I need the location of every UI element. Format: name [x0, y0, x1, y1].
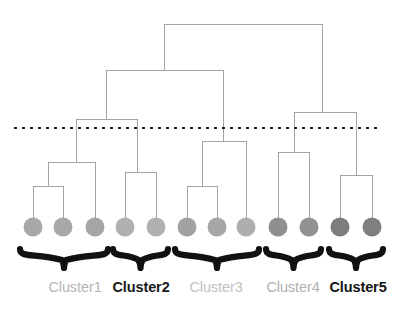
leaf-node-L4 [116, 218, 135, 237]
dendrogram-leaf-nodes [24, 218, 382, 237]
leaf-node-L11 [331, 218, 350, 237]
dendrogram-links [33, 24, 372, 218]
leaf-node-L8 [237, 218, 256, 237]
leaf-node-L7 [208, 218, 227, 237]
leaf-node-L6 [178, 218, 197, 237]
leaf-node-L10 [300, 218, 319, 237]
dendrogram-canvas [0, 0, 409, 315]
leaf-node-L2 [54, 218, 73, 237]
brace-cluster3 [175, 249, 259, 268]
brace-cluster4 [266, 249, 321, 268]
leaf-node-L12 [363, 218, 382, 237]
brace-cluster1 [20, 249, 108, 268]
brace-cluster2 [113, 249, 168, 268]
leaf-node-L1 [24, 218, 43, 237]
leaf-node-L3 [86, 218, 105, 237]
cluster-braces [20, 249, 383, 268]
leaf-node-L9 [269, 218, 288, 237]
leaf-node-L5 [147, 218, 166, 237]
brace-cluster5 [329, 249, 383, 268]
dendrogram-figure: Cluster1Cluster2Cluster3Cluster4Cluster5 [0, 0, 409, 315]
